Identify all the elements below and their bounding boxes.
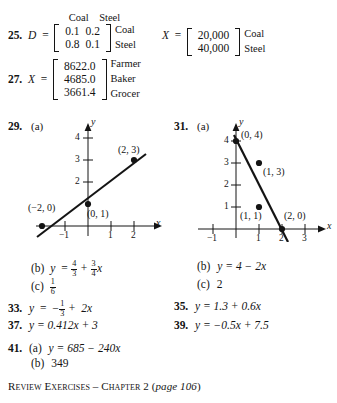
- problem-31-part-b-text: y = 4 − 2x: [217, 260, 266, 272]
- problem-29-fraction-4-3-denominator: 3: [71, 269, 77, 279]
- graph-29-ylabel: y: [91, 116, 95, 127]
- problem-33-fraction-1-3: 1 3: [59, 300, 65, 318]
- problem-29-part-b-plus: +: [81, 262, 88, 274]
- problem-41-part-a: 41. (a) y = 685 − 240x: [8, 342, 120, 354]
- problem-41-part-a-text: y = 685 − 240x: [49, 342, 121, 354]
- graph-31-ytick-2: 2: [224, 179, 229, 189]
- problem-29-part-b-equals: =: [61, 262, 68, 274]
- problem-29-part-c: (c) 1 6: [31, 278, 56, 296]
- problem-37-number: 37.: [8, 319, 22, 331]
- problem-29-number: 29.: [8, 120, 22, 132]
- section-footer-page: page 106: [155, 380, 196, 392]
- problem-41-part-b-label: (b): [31, 357, 44, 369]
- graph-31-xtick-2: 2: [279, 233, 284, 243]
- matrix-X27-cell-1: 4685.0: [61, 73, 99, 85]
- matrix-X27-cell-2: 3661.4: [61, 86, 99, 98]
- graph-31-ytick-4: 4: [224, 135, 229, 145]
- problem-33-plus: +: [69, 302, 76, 314]
- problem-29-fraction-1-6-denominator: 6: [50, 287, 56, 297]
- problem-25: 25. D = Coal Steel 0.1 0.2 0.8 0.1: [8, 12, 265, 56]
- matrix-X25-equals: =: [174, 29, 182, 41]
- matrix-D-bracket: 0.1 0.2 0.8 0.1: [54, 24, 111, 52]
- graph-31: y x −1 1 2 3 1 2 3 4 (0, 4) (1, 3) (1, 1…: [196, 118, 337, 242]
- matrix-X27-bracket: 8622.0 4685.0 3661.4: [53, 59, 107, 100]
- graph-29-ytick-3: 3: [75, 154, 80, 164]
- matrix-X25-symbol: X: [162, 29, 169, 41]
- problem-33-tail: 2x: [81, 302, 92, 314]
- problem-35-number: 35.: [174, 300, 188, 312]
- section-footer: Review Exercises – Chapter 2 (page 106): [8, 380, 201, 392]
- problem-41-part-a-label: (a): [29, 342, 42, 354]
- graph-29-ytick-2: 2: [75, 176, 80, 186]
- matrix-X27-block: 8622.0 4685.0 3661.4 Farmer Baker Grocer: [53, 57, 141, 101]
- answers-page: 25. D = Coal Steel 0.1 0.2 0.8 0.1: [0, 0, 337, 403]
- graph-31-point-label-2-0: (2, 0): [284, 210, 306, 221]
- matrix-X25-row-label-0: Coal: [244, 27, 265, 41]
- problem-29-fraction-3-4-numerator: 3: [91, 260, 97, 269]
- matrix-X27-row-labels: Farmer Baker Grocer: [111, 57, 141, 101]
- matrix-X25-row-labels: Coal Steel: [244, 27, 265, 56]
- matrix-D-equals: =: [41, 29, 49, 41]
- matrix-X25-cell-1: 40,000: [195, 42, 233, 54]
- problem-31-part-c: (c) 2: [197, 278, 222, 290]
- problem-39: 39. y = −0.5x + 7.5: [174, 319, 269, 331]
- matrix-D-col-header-1: Steel: [94, 12, 125, 23]
- problem-29-fraction-1-6-numerator: 1: [50, 278, 56, 287]
- problem-35-text: y = 1.3 + 0.6x: [195, 300, 261, 312]
- graph-31-canvas: [196, 118, 337, 242]
- problem-41-part-b: (b) 349: [31, 357, 69, 369]
- problem-27-number: 27.: [8, 73, 22, 85]
- problem-33-equals: =: [40, 302, 47, 314]
- matrix-X27-grid: 8622.0 4685.0 3661.4: [58, 59, 102, 100]
- problem-29-fraction-4-3-numerator: 4: [71, 260, 77, 269]
- matrix-X27-cell-0: 8622.0: [61, 60, 99, 72]
- section-footer-close: ): [197, 380, 201, 392]
- matrix-X27-equals: =: [40, 73, 48, 85]
- problem-31-part-c-label: (c): [197, 278, 210, 290]
- matrix-X25-block: 20,000 40,000 Coal Steel: [187, 27, 266, 56]
- graph-29-xlabel: x: [156, 217, 160, 228]
- graph-31-ytick-3: 3: [224, 157, 229, 167]
- problem-33-lhs: y: [29, 302, 34, 314]
- graph-31-xtick-1: 1: [256, 233, 261, 243]
- matrix-D-row-label-0: Coal: [115, 23, 136, 37]
- matrix-D-cell-0-1: 0.2: [83, 25, 103, 37]
- graph-31-point-label-1-1: (1, 1): [240, 210, 262, 221]
- problem-33-number: 33.: [8, 302, 22, 314]
- problem-31-part-c-text: 2: [217, 278, 223, 290]
- problem-41-number: 41.: [8, 342, 22, 354]
- matrix-D-cell-1-1: 0.1: [83, 38, 103, 50]
- problem-29-part-b: (b) y = 4 3 + 3 4 x: [31, 260, 102, 278]
- graph-31-ylabel: y: [239, 116, 243, 127]
- graph-31-xtick--1: −1: [207, 233, 217, 243]
- section-footer-title: Review Exercises – Chapter 2 (: [8, 380, 155, 392]
- matrix-D-block: Coal Steel 0.1 0.2 0.8 0.1 Coal S: [54, 12, 136, 56]
- problem-39-number: 39.: [174, 319, 188, 331]
- graph-29: y x −1 1 2 2 3 4 (−2, 0) (0, 1) (2, 3): [34, 118, 166, 242]
- problem-33-fraction-numerator: 1: [59, 300, 65, 309]
- graph-31-xtick-3: 3: [302, 233, 307, 243]
- problem-29-part-b-label: (b): [31, 262, 44, 274]
- problem-31-number: 31.: [174, 120, 188, 132]
- graph-29-point-label--2-0: (−2, 0): [28, 202, 55, 213]
- graph-29-point-label-0-1: (0, 1): [87, 208, 109, 219]
- problem-33-fraction-denominator: 3: [59, 309, 65, 319]
- matrix-X27-row-label-2: Grocer: [111, 87, 141, 101]
- problem-29-part-b-var: x: [97, 262, 102, 274]
- matrix-X25-row-label-1: Steel: [244, 42, 265, 56]
- graph-29-xtick--1: −1: [59, 230, 69, 240]
- matrix-X27-row-label-1: Baker: [111, 72, 141, 86]
- problem-29-fraction-1-6: 1 6: [50, 278, 56, 296]
- matrix-D-column-headers: Coal Steel: [63, 12, 125, 23]
- graph-29-ytick-4: 4: [75, 132, 80, 142]
- matrix-X25-grid: 20,000 40,000: [192, 28, 236, 56]
- matrix-D-grid: 0.1 0.2 0.8 0.1: [59, 24, 106, 52]
- graph-29-point-label-2-3: (2, 3): [118, 144, 140, 155]
- matrix-D-cell-1-0: 0.8: [62, 38, 82, 50]
- graph-31-point-label-0-4: (0, 4): [241, 129, 263, 140]
- graph-31-xlabel: x: [327, 220, 331, 231]
- problem-39-text: y = −0.5x + 7.5: [195, 319, 269, 331]
- problem-33: 33. y = − 1 3 + 2x: [8, 300, 92, 318]
- problem-37-text: y = 0.412x + 3: [29, 319, 98, 331]
- problem-29-fraction-4-3: 4 3: [71, 260, 77, 278]
